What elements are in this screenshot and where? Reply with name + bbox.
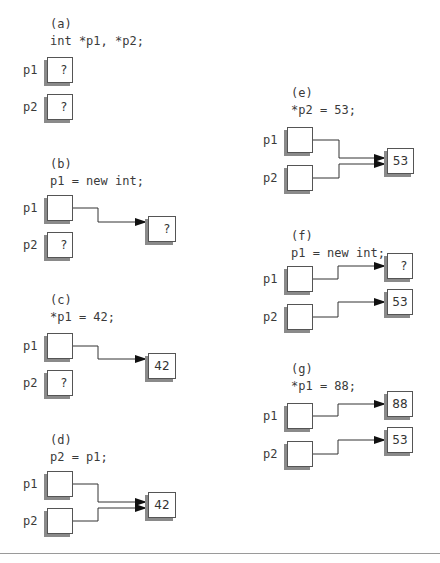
- heap-cell-new: ?: [387, 253, 413, 279]
- panel-label: (c): [50, 293, 72, 307]
- pointer-box-p1: [287, 403, 313, 429]
- var-label-p1: p1: [23, 63, 37, 77]
- code-statement: p2 = p1;: [50, 450, 108, 464]
- heap-cell: 42: [148, 353, 176, 379]
- pointer-box-p2: ?: [47, 370, 73, 396]
- heap-cell: ?: [148, 216, 176, 242]
- var-label-p1: p1: [263, 272, 277, 286]
- arrow-d-p1: [61, 484, 147, 502]
- pointer-box-p1: ?: [47, 57, 73, 83]
- pointer-box-p1: [47, 471, 73, 497]
- panel-label: (a): [50, 17, 72, 31]
- panel-label: (d): [50, 433, 72, 447]
- var-label-p1: p1: [23, 477, 37, 491]
- var-label-p2: p2: [263, 447, 277, 461]
- arrow-c-p1: [61, 346, 147, 359]
- pointer-box-p2: [287, 441, 313, 467]
- var-label-p2: p2: [23, 514, 37, 528]
- pointer-box-p2: [287, 304, 313, 330]
- pointer-box-p2: [287, 165, 313, 191]
- arrow-d-p2: [61, 508, 147, 521]
- heap-cell: 53: [387, 148, 414, 174]
- pointer-box-p2: ?: [47, 94, 73, 120]
- var-label-p2: p2: [23, 376, 37, 390]
- panel-label: (g): [291, 362, 313, 376]
- code-statement: *p1 = 42;: [50, 310, 115, 324]
- heap-cell: 88: [387, 391, 413, 417]
- var-label-p2: p2: [23, 100, 37, 114]
- pointer-box-p1: [287, 266, 313, 292]
- heap-cell: 53: [387, 289, 413, 315]
- pointer-box-p1: [47, 195, 73, 221]
- var-label-p1: p1: [263, 409, 277, 423]
- panel-label: (b): [50, 157, 72, 171]
- panel-label: (f): [291, 229, 313, 243]
- pointer-box-p2: ?: [47, 232, 73, 258]
- panel-label: (e): [291, 86, 313, 100]
- code-statement: p1 = new int;: [50, 174, 144, 188]
- code-statement: int *p1, *p2;: [50, 34, 144, 48]
- pointer-box-p1: [47, 333, 73, 359]
- var-label-p2: p2: [23, 238, 37, 252]
- bottom-divider: [0, 553, 440, 554]
- var-label-p2: p2: [263, 171, 277, 185]
- heap-cell: 53: [387, 427, 413, 453]
- code-statement: *p1 = 88;: [291, 379, 356, 393]
- var-label-p1: p1: [23, 201, 37, 215]
- var-label-p2: p2: [263, 310, 277, 324]
- pointer-box-p2: [47, 508, 73, 534]
- var-label-p1: p1: [23, 339, 37, 353]
- arrow-b-p1: [61, 208, 147, 222]
- pointer-box-p1: [287, 127, 313, 153]
- code-statement: p1 = new int;: [291, 246, 385, 260]
- code-statement: *p2 = 53;: [291, 103, 356, 117]
- var-label-p1: p1: [263, 133, 277, 147]
- heap-cell: 42: [148, 492, 176, 518]
